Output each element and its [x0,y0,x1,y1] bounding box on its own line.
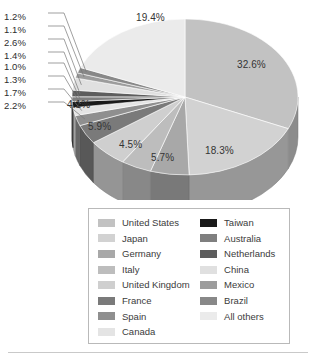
legend-swatch-left-3 [98,266,115,274]
legend-label: Japan [122,234,148,244]
legend-swatch-right-6 [200,312,217,320]
legend-swatch-left-1 [98,234,115,242]
slice-label-japan: 18.3% [205,145,234,156]
pie-slices-group [72,19,298,200]
legend-swatch-right-0 [200,219,217,227]
pie-slice-side-2 [150,171,189,200]
legend-label: Netherlands [224,249,275,259]
legend-swatch-left-7 [98,328,115,336]
legend-label: France [122,296,152,306]
legend-item[interactable]: Canada [98,324,198,340]
legend-label: Italy [122,265,139,275]
legend-label: Mexico [224,280,254,290]
legend-item[interactable]: Netherlands [200,246,289,262]
legend-label: Canada [122,327,155,337]
legend-swatch-left-0 [98,219,115,227]
legend: United StatesJapanGermanyItalyUnited Kin… [88,208,290,344]
legend-swatch-right-4 [200,281,217,289]
slice-label-united-states: 32.6% [237,59,266,70]
legend-item[interactable]: All others [200,309,289,325]
legend-label: China [224,265,249,275]
legend-label: All others [224,312,264,322]
legend-label: Spain [122,312,146,322]
callout-label-mexico: 1.1% [4,24,26,35]
legend-item[interactable]: Brazil [200,293,289,309]
legend-swatch-left-4 [98,281,115,289]
legend-column-left: United StatesJapanGermanyItalyUnited Kin… [89,215,198,343]
legend-item[interactable]: China [200,262,289,278]
legend-item[interactable]: United States [98,215,198,231]
legend-label: Brazil [224,296,248,306]
legend-item[interactable]: Mexico [200,277,289,293]
callout-label-spain: 2.2% [4,100,26,111]
legend-swatch-right-3 [200,266,217,274]
legend-label: United States [122,218,179,228]
footer-divider [8,352,308,353]
legend-item[interactable]: United Kingdom [98,277,198,293]
legend-swatch-left-6 [98,312,115,320]
legend-item[interactable]: Australia [200,231,289,247]
legend-item[interactable]: France [98,293,198,309]
legend-item[interactable]: Spain [98,309,198,325]
legend-swatch-right-1 [200,234,217,242]
callout-label-canada: 1.7% [4,87,26,98]
legend-item[interactable]: Japan [98,231,198,247]
legend-swatch-left-5 [98,297,115,305]
legend-swatch-right-5 [200,297,217,305]
callout-label-china: 2.6% [4,37,26,48]
legend-label: Taiwan [224,218,254,228]
legend-swatch-right-2 [200,250,217,258]
slice-label-all-others: 19.4% [136,12,165,23]
pie-chart-svg [0,0,317,200]
legend-item[interactable]: Germany [98,246,198,262]
legend-swatch-left-2 [98,250,115,258]
slice-label-germany: 5.7% [151,152,174,163]
callout-label-taiwan: 1.3% [4,74,26,85]
callout-label-australia: 1.0% [4,61,26,72]
legend-item[interactable]: Italy [98,262,198,278]
legend-label: Germany [122,249,161,259]
pie-chart: 1.2% 1.1% 2.6% 1.4% 1.0% 1.3% 1.7% 2.2% … [0,0,317,200]
callout-label-netherlands: 1.4% [4,50,26,61]
legend-label: Australia [224,234,261,244]
slice-label-france: 4.1% [67,99,90,110]
callout-label-brazil: 1.2% [4,11,26,22]
legend-column-right: TaiwanAustraliaNetherlandsChinaMexicoBra… [198,215,289,343]
slice-label-italy: 4.5% [119,139,142,150]
legend-label: United Kingdom [122,280,190,290]
legend-item[interactable]: Taiwan [200,215,289,231]
slice-label-united-kingdom: 5.9% [88,121,111,132]
